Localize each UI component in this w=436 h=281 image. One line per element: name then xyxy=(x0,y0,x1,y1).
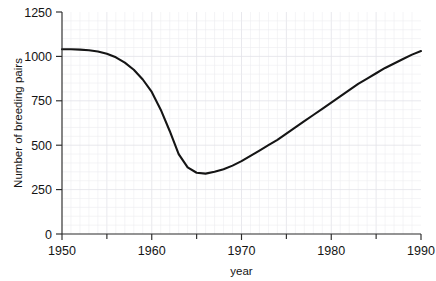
chart-svg: 1250 1000 750 500 250 0 1950 1960 1970 1… xyxy=(0,0,436,281)
y-axis-title: Number of breeding pairs xyxy=(12,58,24,188)
y-tick-label-0: 0 xyxy=(45,228,52,242)
x-tick-label-1970: 1970 xyxy=(228,244,256,258)
x-tickmarks xyxy=(62,234,421,240)
x-tick-label-1980: 1980 xyxy=(317,244,345,258)
chart-figure: 1250 1000 750 500 250 0 1950 1960 1970 1… xyxy=(0,0,436,281)
y-tick-label-1000: 1000 xyxy=(24,50,52,64)
y-tick-label-1250: 1250 xyxy=(24,6,52,20)
y-tickmarks xyxy=(56,12,62,234)
x-tick-label-1950: 1950 xyxy=(48,244,76,258)
y-tick-label-750: 750 xyxy=(31,94,52,108)
x-tick-label-1960: 1960 xyxy=(138,244,166,258)
x-tick-label-1990: 1990 xyxy=(407,244,435,258)
y-tick-label-250: 250 xyxy=(31,183,52,197)
y-tick-label-500: 500 xyxy=(31,139,52,153)
x-axis-title: year xyxy=(230,265,253,277)
